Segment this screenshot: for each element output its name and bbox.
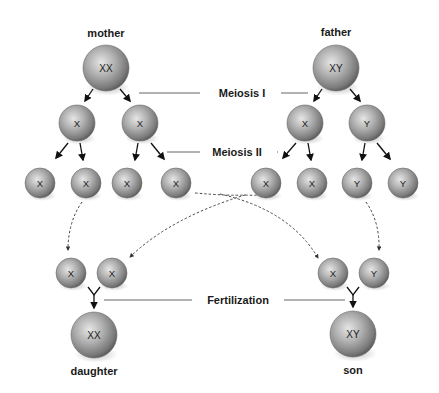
chromosome-label: XY bbox=[346, 329, 360, 340]
chromosome-label: XX bbox=[87, 330, 101, 341]
chromosome-label: X bbox=[68, 268, 75, 279]
cell-f-g4: Y bbox=[388, 168, 419, 201]
cell-f-g1: X bbox=[251, 168, 282, 201]
cell-d-egg: X bbox=[56, 258, 87, 291]
cell-f-g2: X bbox=[297, 168, 328, 201]
chromosome-label: X bbox=[263, 178, 270, 189]
cell-m-g4: X bbox=[161, 168, 192, 201]
meiosis-fertilization-diagram: mother father Meiosis I Meiosis II bbox=[0, 0, 439, 393]
chromosome-label: X bbox=[37, 178, 44, 189]
diagram-canvas: mother father Meiosis I Meiosis II bbox=[0, 0, 439, 393]
cell-m-m1-b: X bbox=[122, 105, 159, 145]
fertilization-label: Fertilization bbox=[207, 294, 269, 306]
chromosome-label: XY bbox=[329, 63, 343, 74]
chromosome-label: Y bbox=[354, 178, 361, 189]
father-label: father bbox=[321, 26, 352, 38]
cell-f-g3: Y bbox=[342, 168, 373, 201]
gamete-paths bbox=[68, 193, 379, 258]
cell-m-g3: X bbox=[112, 168, 143, 201]
meiosis1-indicator: Meiosis I bbox=[139, 87, 308, 99]
cell-father: XY bbox=[313, 45, 360, 96]
chromosome-label: X bbox=[74, 118, 81, 129]
cell-m-m1-a: X bbox=[59, 105, 96, 145]
fertilization-indicator: Fertilization bbox=[104, 294, 345, 306]
chromosome-label: X bbox=[137, 118, 144, 129]
cell-s-egg: X bbox=[318, 258, 349, 291]
chromosome-label: X bbox=[83, 178, 90, 189]
chromosome-label: X bbox=[173, 178, 180, 189]
cell-f-m1-b: Y bbox=[349, 105, 386, 145]
chromosome-label: X bbox=[302, 118, 309, 129]
chromosome-label: X bbox=[124, 178, 131, 189]
meiosis1-label: Meiosis I bbox=[219, 87, 265, 99]
chromosome-label: Y bbox=[371, 268, 378, 279]
meiosis2-label: Meiosis II bbox=[212, 146, 262, 158]
daughter-label: daughter bbox=[70, 365, 118, 377]
chromosome-label: XX bbox=[99, 63, 113, 74]
chromosome-label: X bbox=[330, 268, 337, 279]
chromosome-label: X bbox=[109, 268, 116, 279]
meiosis2-indicator: Meiosis II bbox=[167, 146, 278, 158]
cell-f-m1-a: X bbox=[287, 105, 324, 145]
cell-son: XY bbox=[330, 311, 377, 362]
cell-m-g1: X bbox=[25, 168, 56, 201]
mother-label: mother bbox=[87, 27, 125, 39]
cell-m-g2: X bbox=[71, 168, 102, 201]
chromosome-label: Y bbox=[364, 118, 371, 129]
cell-mother: XX bbox=[83, 45, 130, 96]
cell-s-sperm: Y bbox=[359, 258, 390, 291]
cell-daughter: XX bbox=[71, 312, 118, 363]
cell-d-sperm: X bbox=[97, 258, 128, 291]
chromosome-label: Y bbox=[400, 178, 407, 189]
son-label: son bbox=[343, 364, 363, 376]
chromosome-label: X bbox=[309, 178, 316, 189]
